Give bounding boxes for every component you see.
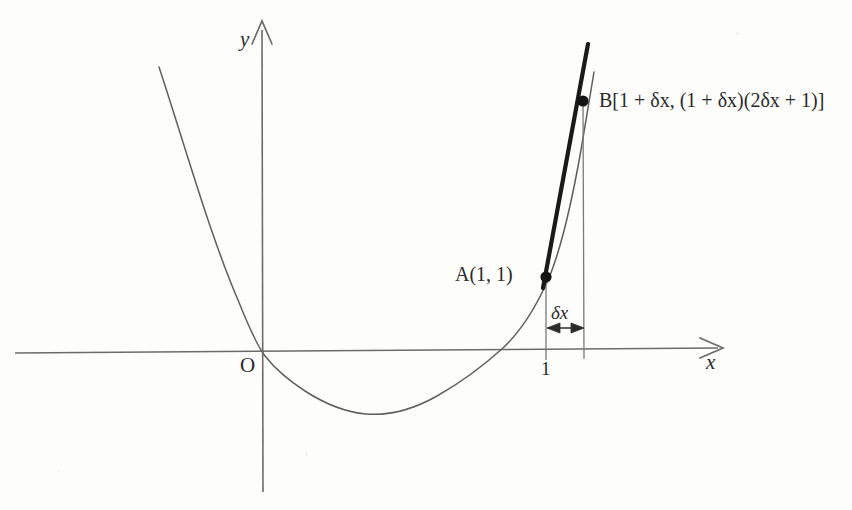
point-b-label: B[1 + δx, (1 + δx)(2δx + 1)] [599, 90, 824, 110]
graph-drawing [0, 0, 852, 510]
origin-label: O [240, 355, 255, 376]
figure-canvas: y x O 1 A(1, 1) B[1 + δx, (1 + δx)(2δx +… [0, 0, 852, 510]
point-b-marker [577, 95, 588, 106]
parabola-curve [159, 67, 594, 414]
delta-x-arrowhead-left [547, 323, 560, 333]
point-a-label: A(1, 1) [455, 264, 513, 284]
x-axis-label: x [706, 352, 715, 373]
delta-x-arrowhead-right [571, 323, 584, 333]
delta-x-label: δx [551, 303, 568, 322]
y-axis-label: y [240, 29, 249, 50]
x-axis-line [15, 348, 718, 353]
point-a-marker [540, 271, 551, 282]
y-axis-line [262, 30, 263, 492]
chord-line-ab [543, 44, 588, 288]
guide-line-b-vertical [583, 103, 584, 359]
x-axis-tick-label-1: 1 [541, 359, 551, 378]
